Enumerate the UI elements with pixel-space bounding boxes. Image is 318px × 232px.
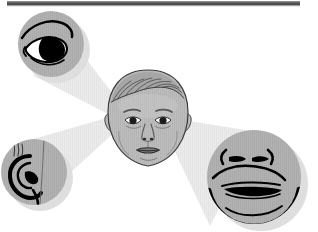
- face-right-pupil-icon: [159, 117, 166, 124]
- ear-inset: [1, 139, 67, 205]
- face-forehead-highlight: [118, 94, 178, 118]
- face-right-nostril-icon: [150, 138, 154, 140]
- figure-root: Infant face with magnified sensory featu…: [0, 0, 318, 232]
- eye-inset: [18, 11, 84, 77]
- face-left-nostril-icon: [143, 138, 147, 140]
- top-edge-bar: [7, 1, 300, 6]
- infant-face-diagram: [0, 0, 318, 232]
- face-left-pupil-icon: [129, 117, 136, 124]
